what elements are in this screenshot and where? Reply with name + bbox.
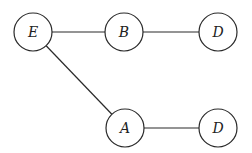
node-label: D: [211, 120, 223, 136]
node-label: D: [211, 24, 223, 40]
node-label: A: [118, 120, 130, 136]
node-e: E: [14, 13, 52, 51]
node-d: D: [199, 109, 237, 147]
nodes: EBDAD: [14, 13, 237, 147]
graph-svg: EBDAD: [0, 0, 252, 153]
node-b: B: [105, 13, 143, 51]
node-d: D: [199, 13, 237, 51]
node-label: E: [27, 24, 38, 40]
edge-e-a: [46, 46, 112, 115]
node-a: A: [106, 109, 144, 147]
node-label: B: [118, 24, 129, 40]
graph-diagram: EBDAD: [0, 0, 252, 153]
